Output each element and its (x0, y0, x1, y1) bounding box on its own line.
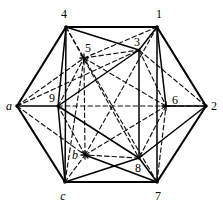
hidden-edges-group (17, 27, 206, 182)
edge-2-7 (157, 106, 206, 182)
vertex-dot-9 (56, 104, 59, 107)
vertex-dot-7 (155, 180, 159, 184)
cross-marker-5 (80, 54, 88, 62)
polyhedron-figure: 4 1 2 7 c a 5 3 6 8 b 9 (0, 0, 223, 208)
diagram-canvas (0, 0, 223, 208)
vertex-dot-8 (137, 156, 140, 159)
vertex-dot-3 (137, 48, 140, 51)
edge-2-3 (139, 50, 206, 106)
edge-1-b (85, 27, 157, 155)
vertex-dot-2 (204, 104, 208, 108)
cross-marker-6 (162, 102, 170, 110)
edge-c-a (17, 106, 65, 182)
edge-1-5 (84, 27, 157, 58)
edge-a-5 (17, 58, 84, 106)
cross-marker-b (81, 151, 89, 159)
vertex-dot-a (15, 104, 19, 108)
vertex-dot-c (63, 180, 67, 184)
edge-a-b (17, 106, 85, 155)
edge-4-c (65, 27, 66, 182)
vertex-dot-1 (155, 25, 159, 29)
vertex-dot-4 (64, 25, 68, 29)
edge-2-8 (139, 106, 206, 158)
edge-3-9 (58, 50, 139, 106)
edge-c-9 (58, 106, 65, 182)
